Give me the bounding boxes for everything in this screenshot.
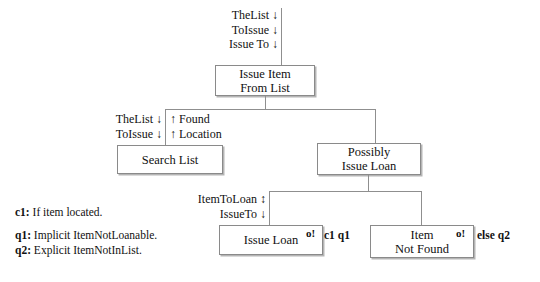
search-output-label-2: ↑ Location (170, 127, 222, 141)
node-possibly-issue-loan-line-1: Possibly (348, 145, 390, 159)
connector-box3-down (368, 175, 369, 191)
node-issue-loan-output-marker: o! (306, 228, 315, 239)
node-issue-item-from-list-line-2: From List (240, 81, 290, 95)
node-issue-loan-line-1: Issue Loan (244, 233, 299, 247)
legend-entry-q2: q2: Explicit ItemNotInList. (15, 243, 142, 258)
connector-branch2-left-leg (269, 191, 270, 225)
legend-text-c1: If item located. (33, 206, 103, 218)
legend-key-q1: q1: (15, 229, 31, 241)
legend-key-c1: c1: (15, 206, 30, 218)
node-possibly-issue-loan[interactable]: Possibly Issue Loan (317, 143, 421, 175)
legend-entry-c1: c1: If item located. (15, 205, 103, 220)
loan-input-label-2: IssueTo ↓ (220, 207, 266, 221)
diagram-canvas: TheList ↓ ToIssue ↓ Issue To ↓ Issue Ite… (0, 0, 540, 282)
top-input-labels: TheList ↓ ToIssue ↓ Issue To ↓ (196, 8, 278, 52)
node-issue-item-from-list-line-1: Issue Item (239, 67, 291, 81)
search-input-label-2: ToIssue ↓ (116, 127, 162, 141)
connector-branch-bar-2 (269, 191, 421, 192)
node-item-not-found-line-1: Item (411, 228, 434, 242)
legend-text-q2: Explicit ItemNotInList. (34, 244, 142, 256)
top-input-label-3: Issue To ↓ (229, 37, 278, 51)
connector-top-spine (281, 8, 282, 65)
top-input-label-1: TheList ↓ (232, 8, 278, 22)
loan-input-label-1: ItemToLoan ↕ (198, 192, 266, 206)
connector-branch-bar-1 (165, 109, 375, 110)
node-possibly-issue-loan-line-2: Issue Loan (342, 159, 397, 173)
connector-branch2-right-leg (421, 191, 422, 225)
loan-input-labels: ItemToLoan ↕ IssueTo ↓ (178, 192, 266, 221)
search-output-label-1: ↑ Found (170, 112, 210, 126)
legend-text-q1: Implicit ItemNotLoanable. (34, 229, 157, 241)
node-item-not-found-output-marker: o! (456, 228, 465, 239)
search-input-labels: TheList ↓ ToIssue ↓ (88, 112, 162, 141)
legend-entry-q1: q1: Implicit ItemNotLoanable. (15, 228, 157, 243)
node-item-not-found-line-2: Not Found (395, 242, 449, 256)
search-output-labels: ↑ Found ↑ Location (170, 112, 260, 141)
connector-branch1-right-leg (375, 109, 376, 143)
legend-key-q2: q2: (15, 244, 31, 256)
node-search-list[interactable]: Search List (117, 145, 223, 174)
annotation-issue-loan-guard: c1 q1 (324, 229, 350, 241)
top-input-label-2: ToIssue ↓ (232, 23, 278, 37)
search-input-label-1: TheList ↓ (116, 112, 162, 126)
node-search-list-line-1: Search List (142, 153, 199, 167)
connector-box1-down (265, 96, 266, 109)
node-issue-item-from-list[interactable]: Issue Item From List (215, 65, 315, 96)
annotation-item-not-found-guard: else q2 (477, 229, 510, 241)
connector-branch1-left-leg (165, 109, 166, 145)
